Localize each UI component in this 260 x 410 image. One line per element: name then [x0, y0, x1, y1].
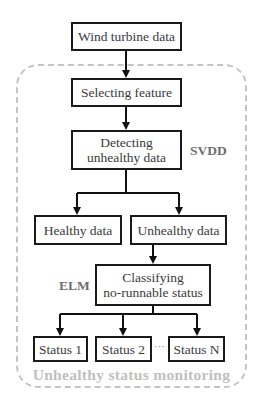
node-label: Wind turbine data — [78, 29, 175, 44]
node-selecting-feature: Selecting feature — [71, 78, 182, 107]
node-label: Status 2 — [102, 342, 145, 357]
node-healthy-data: Healthy data — [34, 215, 122, 245]
node-unhealthy-data: Unhealthy data — [130, 215, 227, 245]
node-detecting-unhealthy-data: Detecting unhealthy data — [71, 130, 182, 170]
node-label: Unhealthy data — [137, 223, 219, 238]
node-label: Healthy data — [44, 223, 113, 238]
node-label-line2: no-runnable status — [103, 285, 202, 300]
node-status-n: Status N — [168, 336, 225, 362]
node-status-2: Status 2 — [95, 336, 152, 362]
method-label-elm: ELM — [59, 278, 90, 294]
node-label-line1: Detecting — [100, 135, 152, 150]
node-label-line2: unhealthy data — [87, 150, 166, 165]
node-label-line1: Classifying — [122, 270, 184, 285]
node-label: Selecting feature — [81, 85, 172, 100]
node-status-1: Status 1 — [33, 336, 88, 362]
ellipsis: ··· — [154, 340, 165, 352]
node-label: Status 1 — [39, 342, 82, 357]
method-label-svdd: SVDD — [190, 143, 227, 159]
node-wind-turbine-data: Wind turbine data — [71, 22, 182, 51]
node-classifying-no-runnable-status: Classifying no-runnable status — [95, 264, 211, 306]
node-label: Status N — [173, 342, 219, 357]
